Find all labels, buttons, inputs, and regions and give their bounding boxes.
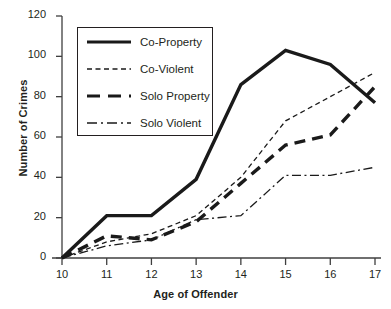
legend: Co-Property Co-Violent Solo Property Sol… — [77, 27, 213, 136]
legend-swatch-solo-violent — [86, 116, 132, 130]
x-tick-label: 11 — [95, 268, 119, 280]
x-tick-label: 10 — [50, 268, 74, 280]
legend-swatch-co-property — [86, 35, 132, 49]
y-tick-label: 20 — [12, 210, 46, 222]
y-tick-label: 60 — [12, 129, 46, 141]
legend-item-co-violent: Co-Violent — [78, 55, 212, 82]
legend-label-co-violent: Co-Violent — [140, 63, 194, 75]
y-tick-label: 80 — [12, 89, 46, 101]
x-tick-label: 13 — [184, 268, 208, 280]
x-tick-label: 16 — [318, 268, 342, 280]
x-tick-label: 14 — [229, 268, 253, 280]
y-tick-label: 100 — [12, 48, 46, 60]
series-line-solo-violent — [62, 167, 375, 258]
legend-swatch-co-violent — [86, 62, 132, 76]
legend-label-solo-violent: Solo Violent — [140, 117, 201, 129]
x-tick-label: 15 — [274, 268, 298, 280]
legend-item-solo-violent: Solo Violent — [78, 109, 212, 136]
y-tick-label: 0 — [12, 250, 46, 262]
legend-item-solo-property: Solo Property — [78, 82, 212, 109]
y-tick-label: 120 — [12, 8, 46, 20]
legend-label-solo-property: Solo Property — [140, 90, 210, 102]
x-tick-label: 17 — [363, 268, 387, 280]
legend-label-co-property: Co-Property — [140, 36, 202, 48]
legend-item-co-property: Co-Property — [78, 28, 212, 55]
legend-swatch-solo-property — [86, 89, 132, 103]
line-chart: Number of Crimes Age of Offender 0204060… — [0, 0, 391, 309]
y-tick-label: 40 — [12, 169, 46, 181]
x-tick-label: 12 — [139, 268, 163, 280]
x-axis-title: Age of Offender — [0, 288, 391, 300]
